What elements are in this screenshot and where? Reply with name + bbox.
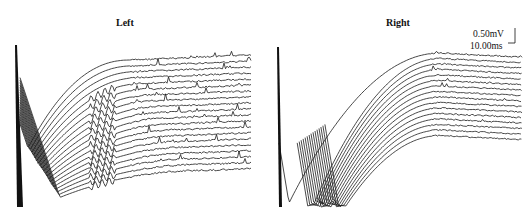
trace [20,78,251,198]
scale-bar [508,28,515,43]
trace [20,90,251,185]
left-traces [20,51,251,197]
trace [20,63,251,152]
right-stimulus-artifact [277,47,282,207]
trace-plot [0,0,523,217]
trace [20,85,251,189]
right-traces [279,51,522,207]
trace [20,80,251,194]
trace [20,73,251,155]
trace [20,95,251,179]
trace [301,66,521,206]
